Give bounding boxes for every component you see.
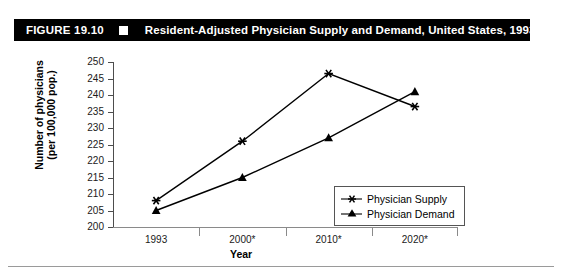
chart-legend: Physician Supply Physician Demand — [334, 186, 465, 226]
legend-item-physician-supply: Physician Supply — [340, 191, 455, 206]
data-point-marker — [411, 87, 420, 95]
bottom-divider — [8, 266, 554, 267]
figure-container: FIGURE 19.10 Resident-Adjusted Physician… — [0, 0, 562, 273]
x-axis-title: Year — [230, 248, 252, 260]
series-line — [156, 74, 415, 201]
triangle-marker-icon — [340, 207, 364, 221]
data-point-marker — [411, 103, 420, 110]
asterisk-marker-icon — [340, 192, 364, 206]
data-point-marker — [238, 173, 247, 181]
legend-item-physician-demand: Physician Demand — [340, 206, 455, 221]
data-point-marker — [324, 133, 333, 141]
series-plot — [0, 0, 562, 273]
series-physician-supply — [152, 70, 419, 204]
legend-label-physician-demand: Physician Demand — [367, 208, 455, 220]
legend-label-physician-supply: Physician Supply — [367, 193, 447, 205]
